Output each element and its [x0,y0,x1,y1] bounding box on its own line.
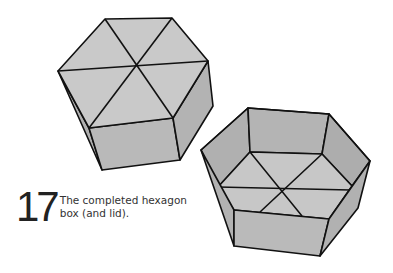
step-number: 17 [16,188,57,226]
hexagon-box [201,108,370,256]
hexagon-lid [58,18,213,170]
hexagon-box-illustration [0,0,393,273]
step-caption: 17 The completed hexagon box (and lid). [16,188,200,226]
step-text-line: The completed hexagon [60,194,200,207]
step-text-line: box (and lid). [60,207,200,220]
box-inner-wall [248,108,329,154]
step-description: The completed hexagon box (and lid). [60,194,200,220]
box-front-wall [234,210,329,256]
